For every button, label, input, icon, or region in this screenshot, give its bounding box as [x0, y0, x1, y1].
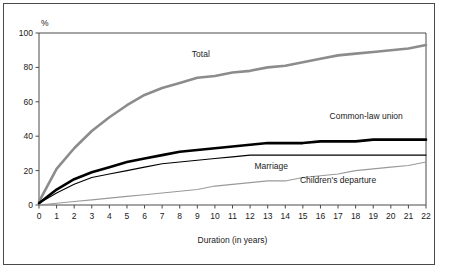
- series-label-marriage: Marriage: [254, 161, 288, 171]
- x-axis-tick-label: 18: [351, 211, 361, 221]
- labels-layer: %Duration (in years)TotalCommon-law unio…: [41, 18, 403, 245]
- x-axis-tick-label: 15: [298, 211, 308, 221]
- y-axis-tick-label: 100: [19, 28, 33, 38]
- series-label-common-law-union: Common-law union: [330, 111, 403, 121]
- x-axis-tick-label: 3: [89, 211, 94, 221]
- line-chart: 0204060801000123456789101112131415161718…: [0, 0, 449, 273]
- x-axis-tick-label: 8: [177, 211, 182, 221]
- series-label-total: Total: [192, 49, 210, 59]
- x-axis-tick-label: 11: [228, 211, 237, 221]
- y-axis-tick-label: 0: [28, 200, 33, 210]
- series-line-common-law-union: [39, 140, 426, 204]
- x-axis-tick-label: 14: [281, 211, 291, 221]
- x-axis-tick-label: 21: [404, 211, 414, 221]
- x-axis-tick-label: 13: [263, 211, 273, 221]
- y-axis-title: %: [41, 18, 49, 28]
- x-axis-tick-label: 7: [160, 211, 165, 221]
- y-axis-tick-label: 40: [24, 131, 34, 141]
- x-axis-tick-label: 22: [421, 211, 431, 221]
- x-axis-tick-label: 20: [386, 211, 396, 221]
- x-axis-tick-label: 12: [245, 211, 255, 221]
- x-axis-tick-label: 6: [142, 211, 147, 221]
- y-axis-tick-label: 20: [24, 166, 34, 176]
- x-axis-tick-label: 9: [195, 211, 200, 221]
- x-axis-title: Duration (in years): [198, 235, 268, 245]
- series-label-children-s-departure: Children's departure: [300, 175, 377, 185]
- x-axis-tick-label: 17: [333, 211, 343, 221]
- x-axis-tick-label: 0: [37, 211, 42, 221]
- x-axis-tick-label: 5: [125, 211, 130, 221]
- y-axis-tick-label: 60: [24, 97, 34, 107]
- x-axis-tick-label: 1: [54, 211, 59, 221]
- axes-layer: 0204060801000123456789101112131415161718…: [19, 28, 431, 221]
- x-axis-tick-label: 4: [107, 211, 112, 221]
- chart-figure: 0204060801000123456789101112131415161718…: [0, 0, 449, 273]
- x-axis-tick-label: 16: [316, 211, 326, 221]
- y-axis-tick-label: 80: [24, 62, 34, 72]
- x-axis-tick-label: 10: [210, 211, 220, 221]
- x-axis-tick-label: 19: [368, 211, 378, 221]
- x-axis-tick-label: 2: [72, 211, 77, 221]
- footnote: [6, 266, 446, 273]
